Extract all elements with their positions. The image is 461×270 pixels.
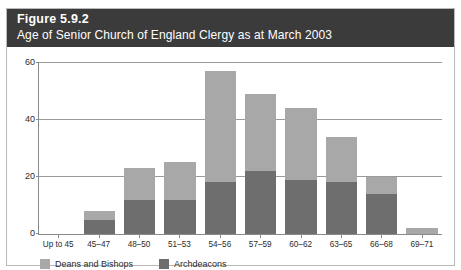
bar-segment-archdeacons[interactable]: [366, 194, 397, 234]
bar-segment-archdeacons[interactable]: [84, 220, 115, 234]
x-tick-mark: [422, 235, 423, 238]
x-tick-label: 54–56: [200, 240, 240, 249]
x-tick-label: 51–53: [159, 240, 199, 249]
bar-segment-archdeacons[interactable]: [124, 200, 155, 234]
x-tick-cell: 57–59: [240, 235, 280, 255]
bar-slot: [79, 63, 119, 234]
bar-slot: [361, 63, 401, 234]
bar-segment-archdeacons[interactable]: [164, 200, 195, 234]
bar-stack[interactable]: [285, 108, 316, 234]
x-tick-label: 69–71: [402, 240, 442, 249]
bar-slot: [402, 63, 442, 234]
x-tick-cell: Up to 45: [38, 235, 78, 255]
x-tick-mark: [301, 235, 302, 238]
x-tick-cell: 54–56: [200, 235, 240, 255]
legend-label: Archdeacons: [174, 259, 227, 269]
legend-item[interactable]: Deans and Bishops: [40, 259, 133, 269]
x-tick-mark: [260, 235, 261, 238]
figure-number: Figure 5.9.2: [17, 12, 444, 27]
bar-segment-archdeacons[interactable]: [285, 180, 316, 234]
x-tick-label: 45–47: [78, 240, 118, 249]
bar-group: [39, 63, 442, 234]
legend-swatch-deans: [40, 259, 50, 269]
bar-stack[interactable]: [326, 137, 357, 234]
x-tick-label: 48–50: [119, 240, 159, 249]
x-tick-mark: [99, 235, 100, 238]
bar-slot: [281, 63, 321, 234]
y-tick-label-60: 60: [25, 57, 35, 67]
y-tick-label-0: 0: [30, 228, 35, 238]
bar-slot: [120, 63, 160, 234]
chart-legend: Deans and BishopsArchdeacons: [40, 259, 227, 269]
bar-segment-deans-and-bishops[interactable]: [245, 94, 276, 171]
bar-segment-deans-and-bishops[interactable]: [124, 168, 155, 200]
x-tick-mark: [341, 235, 342, 238]
chart-area: 0204060 Up to 4545–4748–5051–5354–5657–5…: [7, 47, 454, 265]
x-tick-mark: [58, 235, 59, 238]
x-axis: Up to 4545–4748–5051–5354–5657–5960–6263…: [38, 235, 442, 255]
bar-slot: [321, 63, 361, 234]
bar-slot: [200, 63, 240, 234]
bar-segment-deans-and-bishops[interactable]: [84, 211, 115, 220]
bar-stack[interactable]: [164, 162, 195, 234]
x-tick-cell: 69–71: [402, 235, 442, 255]
bar-slot: [240, 63, 280, 234]
bar-slot: [39, 63, 79, 234]
x-tick-cell: 48–50: [119, 235, 159, 255]
x-tick-cell: 63–65: [321, 235, 361, 255]
x-tick-cell: 66–68: [361, 235, 401, 255]
figure-title: Age of Senior Church of England Clergy a…: [17, 27, 444, 43]
bar-segment-deans-and-bishops[interactable]: [406, 228, 437, 234]
bar-segment-deans-and-bishops[interactable]: [164, 162, 195, 199]
x-tick-cell: 45–47: [78, 235, 118, 255]
x-tick-label: 63–65: [321, 240, 361, 249]
bar-segment-archdeacons[interactable]: [326, 182, 357, 234]
x-tick-cell: 60–62: [280, 235, 320, 255]
bar-segment-deans-and-bishops[interactable]: [205, 71, 236, 183]
x-tick-label: 66–68: [361, 240, 401, 249]
x-tick-label: 57–59: [240, 240, 280, 249]
bar-stack[interactable]: [205, 71, 236, 234]
bar-stack[interactable]: [124, 168, 155, 234]
legend-item[interactable]: Archdeacons: [159, 259, 227, 269]
x-tick-label: 60–62: [280, 240, 320, 249]
x-tick-mark: [220, 235, 221, 238]
bar-segment-archdeacons[interactable]: [205, 182, 236, 234]
bar-segment-archdeacons[interactable]: [245, 171, 276, 234]
bar-segment-deans-and-bishops[interactable]: [285, 108, 316, 180]
y-tick-label-40: 40: [25, 114, 35, 124]
bar-segment-deans-and-bishops[interactable]: [326, 137, 357, 183]
x-tick-mark: [139, 235, 140, 238]
x-tick-mark: [179, 235, 180, 238]
bar-stack[interactable]: [245, 94, 276, 234]
x-tick-label: Up to 45: [38, 240, 78, 249]
figure-container: Figure 5.9.2 Age of Senior Church of Eng…: [6, 8, 455, 266]
bar-stack[interactable]: [84, 211, 115, 234]
legend-swatch-archdeacons: [159, 259, 169, 269]
x-tick-cell: 51–53: [159, 235, 199, 255]
bar-slot: [160, 63, 200, 234]
y-tick-label-20: 20: [25, 171, 35, 181]
x-tick-mark: [381, 235, 382, 238]
legend-label: Deans and Bishops: [55, 259, 133, 269]
bar-segment-deans-and-bishops[interactable]: [366, 177, 397, 194]
bar-stack[interactable]: [406, 228, 437, 234]
bar-stack[interactable]: [366, 177, 397, 234]
figure-title-band: Figure 5.9.2 Age of Senior Church of Eng…: [7, 9, 454, 47]
plot-region: 0204060: [38, 63, 442, 235]
